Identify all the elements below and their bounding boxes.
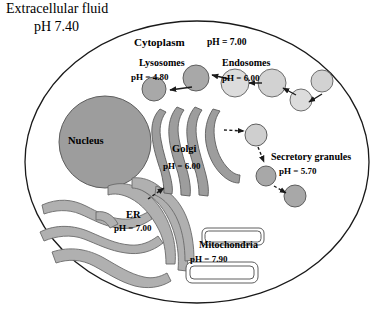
- cytoplasm-ph: pH = 7.00: [207, 38, 246, 48]
- extracellular-fluid-label: Extracellular fluid: [6, 2, 108, 17]
- extracellular-fluid-ph: pH 7.40: [34, 20, 79, 35]
- er-ph: pH = 7.00: [114, 224, 151, 233]
- secretory-granules-label: Secretory granules: [271, 152, 351, 163]
- mitochondria-label: Mitochondria: [199, 240, 258, 251]
- endosomes-label: Endosomes: [222, 58, 270, 69]
- secretory-granules-ph: pH = 5.70: [279, 167, 316, 176]
- cytoplasm-label: Cytoplasm: [134, 37, 185, 49]
- golgi-ph: pH = 6.00: [163, 162, 200, 171]
- lysosomes-label: Lysosomes: [139, 58, 185, 69]
- golgi-label: Golgi: [172, 143, 197, 154]
- endosomes-ph: pH = 6.00: [222, 74, 259, 83]
- mitochondria-ph: pH = 7.90: [190, 255, 227, 264]
- diagram-canvas: Extracellular fluid pH 7.40 Cytoplasm pH…: [0, 0, 381, 315]
- er-label: ER: [126, 209, 141, 220]
- nucleus-label: Nucleus: [68, 135, 104, 146]
- lysosomes-ph: pH = 4.80: [131, 73, 168, 82]
